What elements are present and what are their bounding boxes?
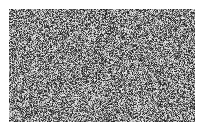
noise-field bbox=[9, 9, 195, 122]
image-canvas bbox=[0, 0, 204, 131]
